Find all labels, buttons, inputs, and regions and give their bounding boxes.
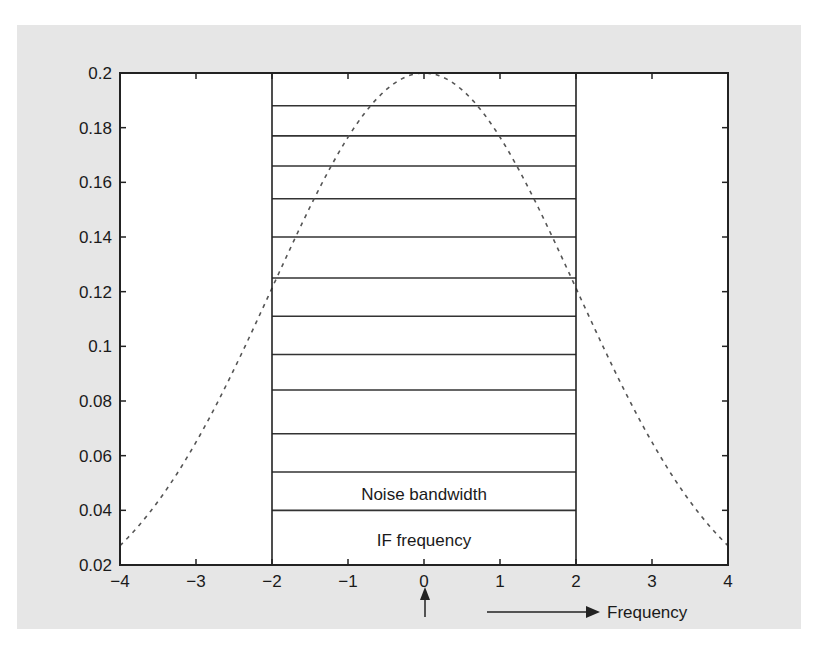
y-tick-label: 0.1 [88, 337, 112, 356]
noise-bandwidth-label: Noise bandwidth [361, 485, 487, 504]
frequency-arrow-icon [487, 606, 600, 618]
x-tick-label: 1 [495, 572, 504, 591]
y-tick-label: 0.06 [79, 447, 112, 466]
y-tick-label: 0.2 [88, 64, 112, 83]
if-frequency-label: IF frequency [377, 531, 472, 550]
y-tick-label: 0.16 [79, 173, 112, 192]
y-tick-label: 0.02 [79, 556, 112, 575]
chart-canvas: −4−3−2−101234 0.020.040.060.080.10.120.1… [0, 0, 826, 648]
y-tick-label: 0.04 [79, 501, 112, 520]
x-tick-label: −2 [262, 572, 281, 591]
y-tick-label: 0.14 [79, 228, 112, 247]
x-tick-label: 4 [723, 572, 732, 591]
if-arrow-icon [420, 587, 430, 617]
x-tick-label: −3 [186, 572, 205, 591]
y-tick-label: 0.18 [79, 119, 112, 138]
y-tick-label: 0.08 [79, 392, 112, 411]
frequency-axis-label: Frequency [607, 603, 688, 622]
x-tick-label: −4 [110, 572, 129, 591]
x-tick-label: 3 [647, 572, 656, 591]
x-tick-label: 2 [571, 572, 580, 591]
x-tick-label: −1 [338, 572, 357, 591]
y-tick-label: 0.12 [79, 283, 112, 302]
x-tick-label: 0 [419, 572, 428, 591]
